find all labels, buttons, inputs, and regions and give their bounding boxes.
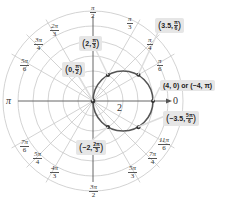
callout-text: 3.5, [161,22,173,29]
callout-text: (4, 0) or (−4, π) [163,82,212,89]
angle-label: 3π2 [89,183,98,199]
angle-label: π3 [127,15,133,31]
angle-denominator: 6 [23,66,27,73]
angle-denominator: 3 [53,31,57,38]
angle-denominator: 2 [92,192,96,199]
point-callout-p1: (0,π2) [62,62,85,77]
angle-label: π2 [90,4,96,20]
arrow-head-icon [166,99,172,104]
callout-denominator: 3 [95,148,98,153]
callout-leader [153,87,160,101]
angle-label: 5π6 [20,57,29,73]
angle-denominator: 4 [37,45,41,52]
angle-label: 11π6 [158,136,170,152]
angle-denominator: 6 [23,147,27,154]
angle-denominator: 6 [162,145,166,152]
callout-text: −3.5, [169,115,185,122]
polar-grid [0,0,228,210]
angle-denominator: 3 [131,173,135,180]
zero-axis-label: 0 [173,96,178,106]
point-callout-p2: (2,π3) [79,36,102,51]
pi-axis-label: π [6,96,11,106]
point-callout-p4: (4, 0) or (−4, π) [160,80,215,91]
grid-ray [93,20,140,101]
callout-text: 0, [68,66,74,73]
angle-denominator: 3 [128,24,132,31]
point-callout-p5: (−3.5,5π6) [163,111,199,126]
angle-denominator: 2 [91,13,95,20]
angle-label: 7π4 [148,150,157,166]
angle-label: 7π6 [20,138,29,154]
callout-denominator: 6 [188,119,191,124]
angle-label: 4π3 [50,164,59,180]
angle-denominator: 3 [53,173,57,180]
angle-denominator: 4 [148,45,152,52]
angle-label: 3π4 [34,36,43,52]
point-callout-p6: (−2,2π3) [76,140,106,155]
angle-label: π4 [147,36,153,52]
callout-text: −2, [82,144,92,151]
radius-2-label: 2 [117,103,122,113]
angle-label: π6 [157,57,163,73]
angle-label: 5π3 [128,164,137,180]
angle-label: 2π3 [50,22,59,38]
point-callout-p3: (3.5,π6) [155,18,184,33]
angle-denominator: 4 [151,159,155,166]
angle-denominator: 4 [36,159,40,166]
angle-label: 5π4 [33,150,42,166]
callout-leader [138,116,165,127]
callout-text: 2, [85,40,91,47]
angle-denominator: 6 [158,66,162,73]
